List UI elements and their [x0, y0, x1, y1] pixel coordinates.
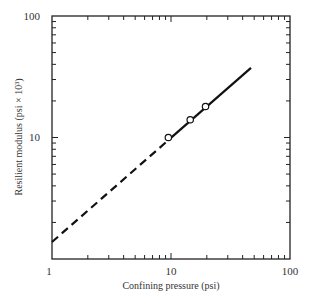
data-point-marker	[187, 117, 193, 123]
data-series	[52, 68, 251, 242]
extrapolation-line	[52, 140, 168, 242]
fit-line	[168, 68, 251, 140]
y-tick-label-100: 100	[24, 10, 41, 22]
y-axis-label: Resilient modulus (psi × 10³)	[13, 79, 25, 196]
y-tick-label-10: 10	[29, 131, 41, 143]
x-tick-label-10: 10	[166, 265, 178, 277]
x-tick-label-1: 1	[46, 265, 52, 277]
data-point-marker	[165, 134, 171, 140]
x-tick-label-100: 100	[282, 265, 299, 277]
x-axis-label: Confining pressure (psi)	[122, 280, 219, 292]
data-point-marker	[202, 103, 208, 109]
chart: 100 10 1 10 100 Confining pressure (psi)…	[0, 0, 312, 305]
